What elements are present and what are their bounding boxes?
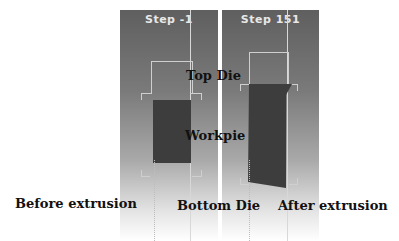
label-before-extrusion: Before extrusion bbox=[15, 196, 137, 211]
die-bracket bbox=[240, 178, 249, 185]
die-bracket bbox=[289, 178, 298, 185]
label-workpiece: Workpie bbox=[185, 128, 245, 143]
die-bracket bbox=[192, 170, 202, 177]
die-bracket bbox=[141, 93, 152, 100]
label-top-die: Top Die bbox=[186, 68, 241, 83]
die-bracket bbox=[141, 170, 150, 177]
bottom-die-outline bbox=[154, 160, 155, 241]
step-label: Step -1 bbox=[120, 13, 218, 26]
die-bracket bbox=[190, 93, 202, 100]
label-after-extrusion: After extrusion bbox=[278, 198, 388, 213]
label-bottom-die: Bottom Die bbox=[177, 198, 260, 213]
